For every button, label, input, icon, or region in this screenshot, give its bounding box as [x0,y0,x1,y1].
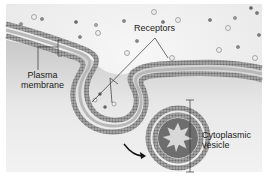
label-vesicle-line1: Cytoplasmic [202,130,251,140]
label-plasma-membrane: Plasma membrane [21,70,64,90]
endocytosis-diagram: Receptors Plasma membrane Cytoplasmic ve… [0,0,268,177]
cytoplasmic-vesicle [148,108,208,168]
label-receptors: Receptors [134,23,175,33]
label-plasma-line2: membrane [21,80,64,90]
label-plasma-line1: Plasma [21,70,64,80]
label-vesicle-line2: vesicle [202,140,251,150]
label-cytoplasmic-vesicle: Cytoplasmic vesicle [202,130,251,150]
